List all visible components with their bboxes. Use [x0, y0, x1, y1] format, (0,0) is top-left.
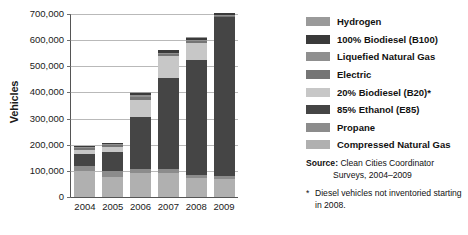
bar-segment[interactable] — [74, 171, 95, 197]
y-axis-tick — [67, 66, 71, 67]
legend-swatch-icon — [306, 70, 330, 79]
source-line-2: Surveys, 2004–2009 — [306, 170, 466, 182]
bar-segment[interactable] — [130, 173, 151, 197]
bar-2008[interactable] — [186, 37, 207, 197]
bar-2007[interactable] — [158, 50, 179, 197]
legend-swatch-icon — [306, 17, 330, 26]
chart-legend: Hydrogen100% Biodiesel (B100)Liquefied N… — [306, 13, 451, 154]
bar-segment[interactable] — [214, 17, 235, 176]
legend-swatch-icon — [306, 88, 330, 97]
legend-item[interactable]: Propane — [306, 119, 451, 137]
source-note: Source: Clean Cities Coordinator Surveys… — [306, 158, 466, 181]
legend-swatch-icon — [306, 140, 330, 149]
footnote: * Diesel vehicles not inventoried starti… — [306, 188, 468, 211]
x-axis-line — [70, 197, 238, 198]
footnote-text: Diesel vehicles not inventoried starting… — [306, 188, 468, 211]
bar-segment[interactable] — [102, 152, 123, 171]
y-tick-label: 0 — [2, 191, 64, 202]
bar-2005[interactable] — [102, 143, 123, 197]
bar-segment[interactable] — [74, 154, 95, 166]
legend-item[interactable]: 100% Biodiesel (B100) — [306, 31, 451, 49]
bar-segment[interactable] — [158, 78, 179, 169]
legend-label: Electric — [337, 69, 371, 80]
bar-segment[interactable] — [186, 43, 207, 59]
bar-segment[interactable] — [158, 173, 179, 197]
y-tick-label: 300,000 — [2, 113, 64, 124]
x-tick-label-2009: 2009 — [207, 201, 241, 212]
bar-segment[interactable] — [130, 117, 151, 169]
legend-label: 20% Biodiesel (B20)* — [337, 87, 431, 98]
y-tick-label: 400,000 — [2, 86, 64, 97]
legend-label: Compressed Natural Gas — [337, 139, 451, 150]
bar-2009[interactable] — [214, 13, 235, 197]
y-tick-label: 700,000 — [2, 8, 64, 19]
bar-segment[interactable] — [102, 177, 123, 197]
legend-item[interactable]: Electric — [306, 66, 451, 84]
legend-swatch-icon — [306, 35, 330, 44]
source-label: Source: — [306, 158, 338, 168]
bar-segment[interactable] — [214, 179, 235, 197]
y-tick-label: 500,000 — [2, 60, 64, 71]
legend-label: 100% Biodiesel (B100) — [337, 34, 438, 45]
y-axis-tick — [67, 171, 71, 172]
bar-2006[interactable] — [130, 92, 151, 197]
legend-item[interactable]: Hydrogen — [306, 13, 451, 31]
legend-item[interactable]: 20% Biodiesel (B20)* — [306, 83, 451, 101]
y-axis-tick — [67, 40, 71, 41]
legend-label: Propane — [337, 122, 375, 133]
legend-label: Hydrogen — [337, 16, 381, 27]
bar-segment[interactable] — [186, 178, 207, 197]
y-axis-tick — [67, 14, 71, 15]
bar-segment[interactable] — [186, 60, 207, 175]
vehicles-stacked-bar-chart: Vehicles 700,000600,000500,000400,000300… — [0, 0, 468, 235]
legend-label: Liquefied Natural Gas — [337, 51, 435, 62]
bar-segment[interactable] — [130, 100, 151, 117]
y-axis-tick — [67, 145, 71, 146]
bar-2004[interactable] — [74, 146, 95, 197]
footnote-marker: * — [306, 188, 309, 200]
legend-label: 85% Ethanol (E85) — [337, 104, 419, 115]
legend-item[interactable]: Compressed Natural Gas — [306, 136, 451, 154]
plot-area: 200420052006200720082009 — [71, 14, 238, 197]
y-tick-label: 100,000 — [2, 165, 64, 176]
legend-item[interactable]: Liquefied Natural Gas — [306, 48, 451, 66]
y-axis-tick — [67, 197, 71, 198]
legend-swatch-icon — [306, 52, 330, 61]
bar-segment[interactable] — [158, 56, 179, 78]
legend-item[interactable]: 85% Ethanol (E85) — [306, 101, 451, 119]
y-axis-tick — [67, 92, 71, 93]
legend-swatch-icon — [306, 123, 330, 132]
source-line-1: Clean Cities Coordinator — [340, 158, 434, 168]
y-axis-tick — [67, 119, 71, 120]
legend-swatch-icon — [306, 105, 330, 114]
y-tick-label: 600,000 — [2, 34, 64, 45]
y-tick-label: 200,000 — [2, 139, 64, 150]
